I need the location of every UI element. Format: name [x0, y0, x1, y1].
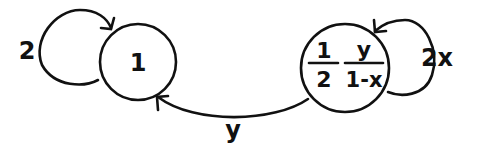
edge-label-y: y	[225, 116, 241, 144]
state-diagram: 1 2 2x y 1 2 y 1-x	[0, 0, 492, 151]
frac1-denominator: 2	[316, 67, 331, 92]
edge-node-2-to-node-1	[158, 97, 308, 117]
frac2-denominator: 1-x	[346, 68, 383, 92]
node-1-label: 1	[130, 49, 147, 77]
frac1-numerator: 1	[316, 38, 331, 63]
loop-label-2: 2	[19, 37, 36, 65]
frac2-numerator: y	[357, 37, 371, 62]
loop-label-2x: 2x	[421, 44, 454, 72]
self-loop-node-1	[40, 10, 111, 84]
